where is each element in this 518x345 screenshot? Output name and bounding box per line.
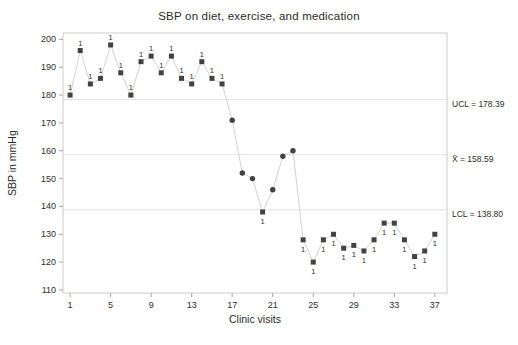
y-tick-label: 140 [41,201,56,211]
x-tick-label: 21 [268,300,278,310]
y-tick-label: 170 [41,118,56,128]
chart-svg: 1101201301401501601701801902001591317212… [0,0,518,345]
data-point-in-control [250,176,255,181]
data-point-out-of-control [118,70,123,75]
data-point-out-of-control [149,54,154,59]
y-tick-label: 130 [41,229,56,239]
ooc-flag-label: 1 [423,256,427,265]
ooc-flag-label: 1 [362,256,366,265]
ooc-flag-label: 1 [119,61,123,70]
ooc-flag-label: 1 [321,245,325,254]
data-point-out-of-control [169,54,174,59]
ooc-flag-label: 1 [109,33,113,42]
data-point-out-of-control [361,248,366,253]
data-point-out-of-control [372,237,377,242]
data-point-out-of-control [78,48,83,53]
y-tick-label: 180 [41,90,56,100]
ooc-flag-label: 1 [433,239,437,248]
data-point-in-control [230,117,235,122]
data-point-out-of-control [159,70,164,75]
ooc-flag-label: 1 [98,66,102,75]
x-tick-label: 25 [308,300,318,310]
data-point-out-of-control [199,59,204,64]
data-point-out-of-control [422,248,427,253]
data-point-out-of-control [98,76,103,81]
data-point-out-of-control [209,76,214,81]
ooc-flag-label: 1 [412,262,416,271]
data-point-in-control [270,187,275,192]
ooc-flag-label: 1 [139,50,143,59]
data-point-out-of-control [301,237,306,242]
ooc-flag-label: 1 [190,72,194,81]
data-point-out-of-control [432,232,437,237]
data-point-out-of-control [341,246,346,251]
ooc-flag-label: 1 [261,217,265,226]
ooc-flag-label: 1 [68,83,72,92]
y-tick-label: 150 [41,174,56,184]
data-point-out-of-control [402,237,407,242]
x-tick-label: 33 [389,300,399,310]
ooc-flag-label: 1 [159,61,163,70]
y-tick-label: 120 [41,257,56,267]
ooc-flag-label: 1 [149,44,153,53]
data-point-out-of-control [68,93,73,98]
data-point-out-of-control [139,59,144,64]
data-point-out-of-control [88,81,93,86]
ooc-flag-label: 1 [311,267,315,276]
data-point-in-control [280,154,285,159]
ooc-flag-label: 1 [88,72,92,81]
ooc-flag-label: 1 [210,66,214,75]
y-tick-label: 110 [42,285,56,295]
data-point-out-of-control [351,243,356,248]
x-tick-label: 5 [108,300,113,310]
y-tick-label: 160 [41,146,56,156]
data-point-out-of-control [179,76,184,81]
series-line [70,45,435,262]
data-point-out-of-control [260,209,265,214]
x-tick-label: 37 [430,300,440,310]
ooc-flag-label: 1 [342,253,346,262]
ooc-flag-label: 1 [372,245,376,254]
x-tick-label: 9 [149,300,154,310]
data-point-out-of-control [392,221,397,226]
sbp-control-chart-figure: SBP on diet, exercise, and medication SB… [0,0,518,345]
data-point-out-of-control [321,237,326,242]
ooc-flag-label: 1 [169,44,173,53]
ooc-flag-label: 1 [179,66,183,75]
ooc-flag-label: 1 [301,245,305,254]
ooc-flag-label: 1 [129,83,133,92]
data-point-in-control [290,148,295,153]
x-tick-label: 1 [68,300,73,310]
ooc-flag-label: 1 [200,50,204,59]
ooc-flag-label: 1 [392,228,396,237]
data-point-out-of-control [108,42,113,47]
ooc-flag-label: 1 [382,228,386,237]
data-point-out-of-control [382,221,387,226]
x-tick-label: 29 [349,300,359,310]
y-tick-label: 190 [41,62,56,72]
ooc-flag-label: 1 [78,39,82,48]
x-tick-label: 13 [187,300,197,310]
ooc-flag-label: 1 [220,72,224,81]
data-point-out-of-control [412,254,417,259]
ooc-flag-label: 1 [402,245,406,254]
x-tick-label: 17 [227,300,237,310]
ooc-flag-label: 1 [331,239,335,248]
y-tick-label: 200 [41,34,56,44]
data-point-out-of-control [128,93,133,98]
ooc-flag-label: 1 [352,250,356,259]
data-point-out-of-control [311,260,316,265]
data-point-out-of-control [189,81,194,86]
data-point-out-of-control [220,81,225,86]
data-point-in-control [240,170,245,175]
data-point-out-of-control [331,232,336,237]
